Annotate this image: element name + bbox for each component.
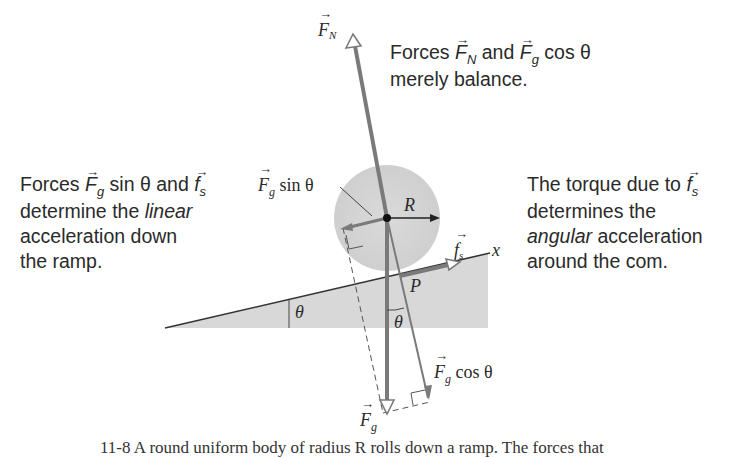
fs-symbol: fs: [194, 173, 206, 195]
label-fg-sin: Fg sin θ: [258, 175, 314, 196]
fg-symbol: Fg: [85, 173, 104, 195]
right-angle-cos: [411, 390, 425, 405]
fn-symbol: FN: [455, 41, 476, 63]
label-theta-vector: θ: [394, 312, 403, 333]
annotation-balance: Forces FN and Fg cos θ merely balance.: [390, 40, 591, 92]
label-p: P: [410, 276, 421, 297]
label-radius: R: [404, 195, 415, 216]
note-text: sin θ and: [110, 173, 189, 195]
label-x-axis: x: [492, 240, 500, 261]
note-text: and: [482, 41, 515, 63]
label-fn: FN: [318, 20, 336, 41]
note-text: determines the: [527, 200, 656, 222]
note-text: Forces: [390, 41, 450, 63]
label-theta-ramp: θ: [295, 302, 304, 323]
note-text: around the com.: [527, 250, 668, 272]
note-text: acceleration: [597, 225, 702, 247]
figure-caption: 11-8 A round uniform body of radius R ro…: [100, 438, 604, 458]
note-text: cos θ: [544, 41, 591, 63]
note-emphasis: linear: [145, 200, 193, 222]
note-text: Forces: [20, 173, 80, 195]
fs-symbol: fs: [686, 173, 698, 195]
annotation-linear: Forces Fg sin θ and fs determine the lin…: [20, 172, 206, 274]
center-of-mass-dot: [383, 214, 391, 222]
label-fs: fs: [454, 240, 463, 261]
note-text: merely balance.: [390, 68, 528, 90]
note-emphasis: angular: [527, 225, 592, 247]
label-fg: Fg: [360, 410, 377, 431]
label-fg-cos: Fg cos θ: [434, 362, 493, 383]
annotation-angular: The torque due to fs determines the angu…: [527, 172, 703, 274]
note-text: acceleration down: [20, 225, 177, 247]
note-text: determine the: [20, 200, 139, 222]
note-text: The torque due to: [527, 173, 681, 195]
note-text: the ramp.: [20, 250, 102, 272]
normal-force-arrowhead: [346, 34, 361, 48]
fg-symbol: Fg: [520, 41, 539, 63]
